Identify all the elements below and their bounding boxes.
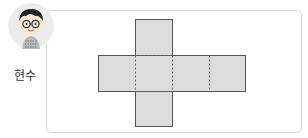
- net-face-top: [136, 20, 173, 56]
- net-face-bottom: [136, 92, 173, 127]
- cube-net-diagram: [0, 0, 308, 138]
